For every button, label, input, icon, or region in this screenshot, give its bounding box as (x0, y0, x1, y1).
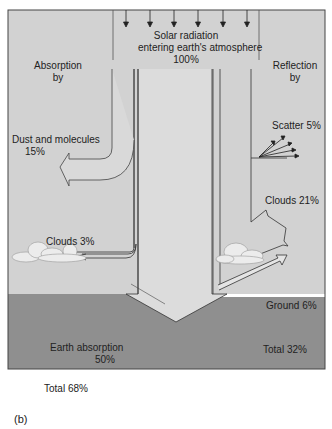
incoming-label-line1: Solar radiation (138, 30, 234, 42)
dust-label-line2: 15% (12, 146, 100, 158)
reflection-heading-line1: Reflection (265, 60, 325, 72)
absorption-total-label: Total 68% (44, 383, 88, 395)
incoming-label-line3: 100% (138, 54, 234, 66)
reflection-heading-line2: by (265, 72, 325, 84)
earth-absorption-line1: Earth absorption (50, 342, 123, 354)
dust-label-line1: Dust and molecules (12, 134, 100, 146)
scatter-label: Scatter 5% (272, 120, 321, 132)
absorption-heading: Absorption by (28, 60, 88, 84)
incoming-label: Solar radiation entering earth's atmosph… (138, 30, 234, 66)
earth-absorption-label: Earth absorption 50% (50, 342, 123, 366)
clouds-absorption-label: Clouds 3% (46, 236, 94, 248)
clouds-reflection-label: Clouds 21% (265, 195, 319, 207)
reflection-heading: Reflection by (265, 60, 325, 84)
earth-absorption-line2: 50% (50, 354, 123, 366)
reflection-total-label: Total 32% (263, 344, 307, 356)
dust-label: Dust and molecules 15% (12, 134, 100, 158)
figure-caption: (b) (14, 413, 27, 425)
absorption-heading-line2: by (28, 72, 88, 84)
ground-reflection-label: Ground 6% (266, 300, 317, 312)
earth-absorption-arrow (126, 69, 227, 322)
absorption-heading-line1: Absorption (28, 60, 88, 72)
incoming-label-line2: entering earth's atmosphere (138, 42, 234, 54)
